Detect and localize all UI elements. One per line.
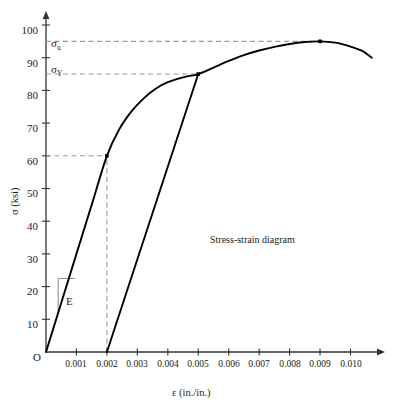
y-axis-title: σ (ksi)	[10, 187, 21, 215]
data-point-marker	[318, 40, 322, 44]
y-tick-label: 100	[12, 25, 38, 36]
x-tick-label: 0.003	[120, 360, 154, 370]
plot-svg	[0, 0, 393, 410]
x-tick-label: 0.002	[90, 360, 124, 370]
y-tick-label: 60	[12, 156, 38, 167]
x-axis-arrow	[377, 349, 385, 356]
x-tick-label: 0.007	[242, 360, 276, 370]
offset-unloading-line	[107, 74, 198, 352]
x-tick-label: 0.004	[151, 360, 185, 370]
modulus-label: E	[66, 296, 73, 307]
x-tick-label: 0.006	[212, 360, 246, 370]
data-point-marker	[196, 72, 200, 76]
y-tick-label: 30	[12, 254, 38, 265]
diagram-caption: Stress-strain diagram	[210, 235, 295, 245]
y-tick-label: 40	[12, 221, 38, 232]
stress-strain-curve	[46, 41, 372, 352]
stress-strain-figure: 100 90 80 70 60 50 40 30 20 10 0.001 0.0…	[0, 0, 393, 410]
sigma-u-label: σu	[51, 38, 61, 52]
origin-label: O	[33, 352, 41, 363]
x-tick-label: 0.010	[334, 360, 368, 370]
y-tick-label: 90	[12, 58, 38, 69]
sigma-y-label: σY	[51, 64, 62, 78]
y-tick-label: 80	[12, 90, 38, 101]
y-tick-label: 70	[12, 123, 38, 134]
sigma-y-subscript: Y	[57, 69, 62, 78]
y-tick-label: 20	[12, 286, 38, 297]
sigma-u-subscript: u	[57, 43, 61, 52]
y-tick-label: 10	[12, 319, 38, 330]
x-axis-title: ε (in./in.)	[172, 388, 211, 399]
x-tick-label: 0.008	[273, 360, 307, 370]
data-point-marker	[105, 154, 109, 158]
x-tick-label: 0.001	[59, 360, 93, 370]
x-tick-label: 0.009	[303, 360, 337, 370]
y-axis-arrow	[43, 11, 50, 19]
x-tick-label: 0.005	[181, 360, 215, 370]
